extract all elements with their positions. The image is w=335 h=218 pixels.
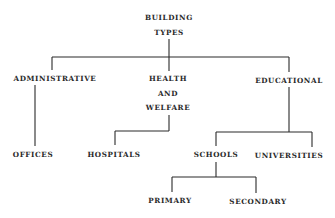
building-types-tree-diagram: BUILDING TYPES ADMINISTRATIVE HEALTH AND… [0,0,335,218]
node-label-line: AND [157,89,178,98]
node-hospitals: HOSPITALS [87,150,140,159]
node-label-line: TYPES [154,28,184,37]
node-label-line: WELFARE [145,103,191,112]
connectors [35,39,312,193]
node-administrative: ADMINISTRATIVE [13,74,97,83]
node-building-types: BUILDING TYPES [145,13,193,37]
nodes: BUILDING TYPES ADMINISTRATIVE HEALTH AND… [13,13,324,206]
node-label-line: SCHOOLS [194,150,239,159]
node-label-line: BUILDING [145,13,193,22]
node-health-and-welfare: HEALTH AND WELFARE [145,74,191,112]
node-label-line: EDUCATIONAL [255,76,323,85]
node-universities: UNIVERSITIES [255,151,323,160]
node-label-line: ADMINISTRATIVE [13,74,97,83]
node-offices: OFFICES [13,150,53,159]
node-label-line: SECONDARY [229,197,287,206]
node-label-line: UNIVERSITIES [255,151,323,160]
node-schools: SCHOOLS [194,150,239,159]
node-primary: PRIMARY [148,196,192,205]
node-label-line: HOSPITALS [87,150,140,159]
node-educational: EDUCATIONAL [255,76,323,85]
node-label-line: HEALTH [149,74,187,83]
node-label-line: OFFICES [13,150,53,159]
node-secondary: SECONDARY [229,197,287,206]
node-label-line: PRIMARY [148,196,192,205]
